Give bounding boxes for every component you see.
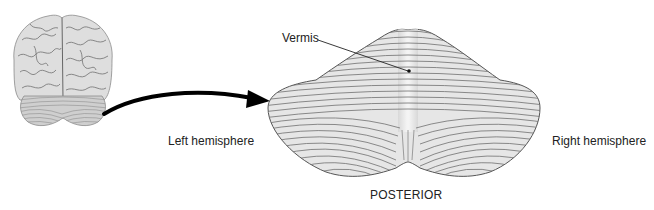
diagram-illustration	[0, 0, 654, 210]
pointer-arrow	[104, 90, 270, 114]
left-hemisphere-label: Left hemisphere	[168, 134, 254, 148]
vermis-label: Vermis	[282, 31, 319, 45]
cerebellum-illustration	[262, 28, 554, 178]
cerebellum-diagram: Vermis Left hemisphere Right hemisphere …	[0, 0, 654, 210]
brain-thumbnail	[14, 15, 112, 126]
posterior-label: POSTERIOR	[370, 188, 442, 202]
right-hemisphere-label: Right hemisphere	[552, 134, 646, 148]
